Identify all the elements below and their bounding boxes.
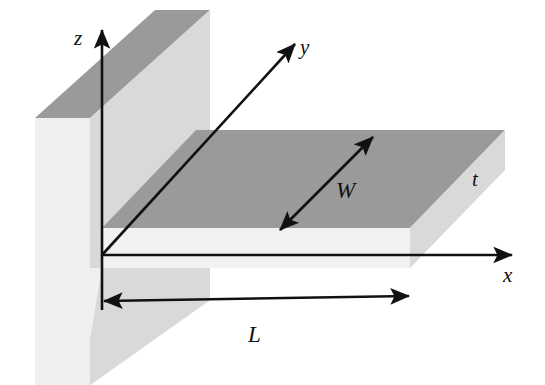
z-axis-label: z	[73, 26, 82, 50]
wall-lower-side-face	[90, 268, 210, 385]
beam-svg-canvas: z y x W L t	[0, 0, 545, 385]
w-dimension-label: W	[336, 178, 357, 203]
beam-front-face	[102, 228, 410, 268]
l-dimension-label: L	[247, 322, 261, 347]
cantilever-beam-diagram: z y x W L t	[0, 0, 545, 385]
x-axis-label: x	[502, 263, 513, 287]
y-axis-label: y	[298, 35, 310, 59]
